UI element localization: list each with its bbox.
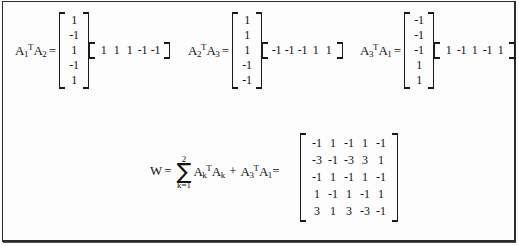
bracket-left-icon — [89, 42, 95, 59]
bracket-right-icon — [164, 42, 170, 59]
matrix-row: 1 — [412, 58, 426, 73]
bracket-right-icon — [509, 42, 515, 59]
matrix-row: 1 — [67, 13, 81, 28]
expression-1-label: A1TA2 — [15, 42, 47, 59]
expression-a2t-a3: A2TA3 = 1 1 1 -1 -1 -1 -1 — [188, 12, 343, 89]
matrix-5x5: -1 1 -1 1 -1 -3 -1 -3 3 1 -1 — [300, 133, 398, 222]
result-matrix-w: -1 1 -1 1 -1 -3 -1 -3 3 1 -1 — [300, 133, 398, 222]
matrix-row: 1 — [240, 43, 254, 58]
column-vector-1: 1 -1 1 -1 1 — [59, 12, 89, 89]
summation-operator: 2 ∑ k=1 — [177, 155, 192, 190]
matrix-row: -1 — [240, 73, 254, 88]
bracket-left-icon — [59, 12, 65, 89]
row-vector-3: 1 -1 1 -1 1 — [434, 42, 515, 59]
expression-3-label: A3TA1 — [360, 42, 392, 59]
table-row: 3 1 3 -3 -1 — [309, 203, 389, 220]
matrix-row: 1 — [412, 73, 426, 88]
table-row: 1 -1 1 -1 1 — [309, 186, 389, 203]
matrix-row: 1 -1 1 -1 1 — [442, 43, 507, 58]
table-row: -1 1 -1 1 -1 — [309, 169, 389, 186]
matrix-row: -1 — [412, 28, 426, 43]
bracket-left-icon — [300, 133, 306, 222]
expression-2-label: A2TA3 — [188, 42, 220, 59]
equation-w-definition: W = 2 ∑ k=1 AkTAk + A3TA1 = — [150, 154, 283, 189]
matrix-row: -1 -1 -1 1 1 — [270, 43, 335, 58]
matrix-row: 1 1 1 -1 -1 — [97, 43, 162, 58]
matrix-row: 1 — [67, 73, 81, 88]
matrix-row: -1 — [67, 58, 81, 73]
bracket-left-icon — [434, 42, 440, 59]
bracket-left-icon — [232, 12, 238, 89]
table-row: -3 -1 -3 3 1 — [309, 152, 389, 169]
w-symbol: W — [150, 163, 162, 179]
table-row: -1 1 -1 1 -1 — [309, 135, 389, 152]
plus-sign: + — [229, 163, 236, 179]
equals-sign: = — [49, 43, 56, 59]
summand-term: AkTAk — [193, 163, 225, 180]
column-vector-3: -1 -1 -1 1 1 — [404, 12, 434, 89]
extra-term-a3t-a1: A3TA1 — [241, 163, 273, 180]
bracket-left-icon — [262, 42, 268, 59]
equals-sign: = — [222, 43, 229, 59]
column-vector-2: 1 1 1 -1 -1 — [232, 12, 262, 89]
expression-a1t-a2: A1TA2 = 1 -1 1 -1 1 1 1 — [15, 12, 170, 89]
bracket-right-icon — [392, 133, 398, 222]
bracket-right-icon — [337, 42, 343, 59]
row-vector-1: 1 1 1 -1 -1 — [89, 42, 170, 59]
matrix-row: -1 — [67, 28, 81, 43]
matrix-row: 1 — [240, 28, 254, 43]
matrix-row: 1 — [240, 13, 254, 28]
figure-border-frame: A1TA2 = 1 -1 1 -1 1 1 1 — [2, 1, 516, 242]
sigma-icon: ∑ — [177, 163, 192, 182]
matrix-row: -1 — [240, 58, 254, 73]
matrix-row: -1 — [412, 43, 426, 58]
equals-sign: = — [164, 163, 171, 179]
matrix-row: 1 — [67, 43, 81, 58]
equals-sign: = — [394, 43, 401, 59]
equals-sign-result: = — [272, 163, 279, 179]
row-vector-2: -1 -1 -1 1 1 — [262, 42, 343, 59]
bracket-left-icon — [404, 12, 410, 89]
summation-lower-limit: k=1 — [177, 181, 191, 190]
matrix-row: -1 — [412, 13, 426, 28]
figure-page: A1TA2 = 1 -1 1 -1 1 1 1 — [0, 0, 519, 246]
expression-a3t-a1: A3TA1 = -1 -1 -1 1 1 1 -1 — [360, 12, 515, 89]
